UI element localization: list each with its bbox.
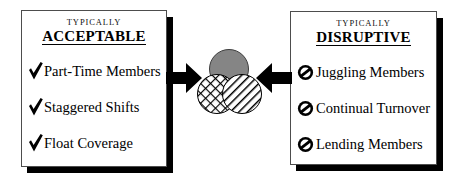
right-arrow-icon: [256, 63, 292, 93]
list-item: Lending Members: [295, 126, 432, 162]
list-item: Float Coverage: [26, 125, 162, 161]
prohibition-icon: [297, 136, 314, 153]
left-panel-item-list: Part-Time Members Staggered Shifts Float…: [26, 53, 162, 161]
left-panel-shadow-horizontal: [27, 167, 173, 173]
left-arrow-icon: [166, 63, 202, 93]
left-panel-headline: ACCEPTABLE: [22, 28, 166, 45]
left-panel-kicker: TYPICALLY: [22, 17, 166, 27]
right-panel-item-list: Juggling Members Continual Turnover: [295, 54, 432, 162]
figure-canvas: TYPICALLY ACCEPTABLE Part-Time Members S…: [0, 0, 458, 184]
center-graphic-venn: [166, 48, 292, 122]
list-item-label: Float Coverage: [44, 136, 133, 151]
list-item: Staggered Shifts: [26, 89, 162, 125]
list-item-label: Continual Turnover: [316, 101, 430, 116]
prohibition-icon: [297, 64, 314, 81]
check-icon: [28, 133, 44, 153]
list-item-label: Part-Time Members: [44, 64, 161, 79]
list-item: Part-Time Members: [26, 53, 162, 89]
right-panel-headline-text: DISRUPTIVE: [316, 29, 411, 46]
right-panel-shadow-vertical: [437, 18, 443, 171]
check-icon: [28, 61, 44, 81]
right-panel-headline: DISRUPTIVE: [291, 29, 436, 46]
prohibition-icon: [297, 100, 314, 117]
list-item-label: Staggered Shifts: [44, 100, 139, 115]
right-panel-shadow-horizontal: [296, 165, 443, 171]
check-icon: [28, 97, 44, 117]
right-panel-kicker: TYPICALLY: [291, 18, 436, 28]
list-item-label: Juggling Members: [316, 65, 424, 80]
list-item: Juggling Members: [295, 54, 432, 90]
right-panel-disruptive: TYPICALLY DISRUPTIVE Juggling Members: [290, 11, 437, 165]
bottom-right-circle: [223, 75, 262, 114]
left-panel-headline-text: ACCEPTABLE: [42, 28, 145, 45]
left-panel-acceptable: TYPICALLY ACCEPTABLE Part-Time Members S…: [21, 10, 167, 167]
list-item: Continual Turnover: [295, 90, 432, 126]
list-item-label: Lending Members: [316, 137, 423, 152]
